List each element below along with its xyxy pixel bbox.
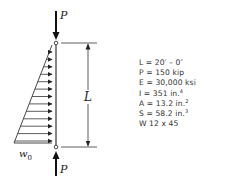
distributed-load (14, 45, 52, 143)
w-symbol: w (19, 148, 28, 159)
section-properties: L = 20′ – 0″P = 150 kipE = 30,000 ksiI =… (139, 58, 196, 129)
property-row: S = 58.2 in.3 (139, 109, 196, 119)
column-diagram (0, 0, 232, 182)
property-row: E = 30,000 ksi (139, 78, 196, 88)
bottom-load-arrow-icon (53, 151, 60, 176)
property-row: P = 150 kip (139, 68, 196, 78)
distributed-load-label: w0 (19, 148, 32, 162)
w-subscript: 0 (28, 154, 32, 162)
bottom-pin-icon (54, 145, 58, 149)
top-load-arrow-icon (53, 11, 60, 40)
length-label: L (84, 90, 92, 104)
bottom-load-label: P (60, 163, 67, 176)
property-row: W 12 x 45 (139, 119, 196, 129)
property-row: L = 20′ – 0″ (139, 58, 196, 68)
top-load-label: P (60, 9, 67, 22)
top-pin-icon (54, 41, 58, 45)
